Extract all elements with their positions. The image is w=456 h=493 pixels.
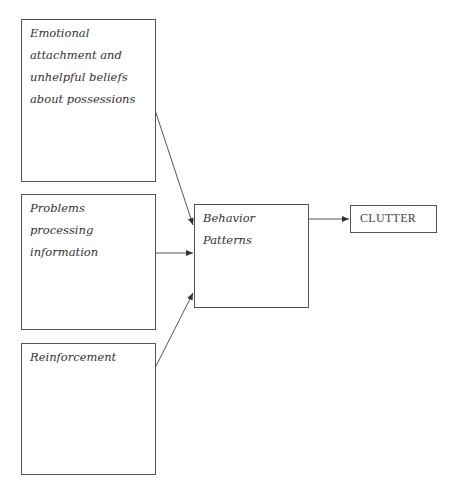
node-label: Emotional attachment and unhelpful belie… xyxy=(22,20,155,112)
node-label: Behavior Patterns xyxy=(195,205,308,253)
node-problems-processing: Problems processing information xyxy=(21,194,156,330)
node-clutter: CLUTTER xyxy=(350,205,437,233)
arrow-emotional-to-behavior xyxy=(155,110,193,225)
node-label: CLUTTER xyxy=(351,206,436,231)
node-label: Problems processing information xyxy=(22,195,155,265)
node-emotional-attachment: Emotional attachment and unhelpful belie… xyxy=(21,19,156,182)
node-behavior-patterns: Behavior Patterns xyxy=(194,204,309,308)
node-label: Reinforcement xyxy=(22,344,155,370)
arrow-reinforcement-to-behavior xyxy=(155,293,193,368)
node-reinforcement: Reinforcement xyxy=(21,343,156,475)
